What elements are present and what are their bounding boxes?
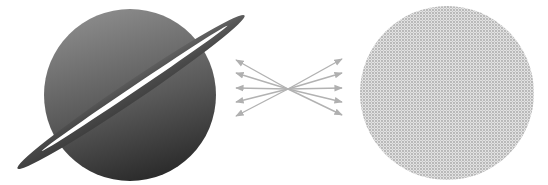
halftone-circle — [360, 6, 534, 180]
diagram-canvas — [0, 0, 548, 185]
saturn-planet-icon — [12, 7, 250, 181]
crossing-arrows-icon — [236, 59, 342, 116]
